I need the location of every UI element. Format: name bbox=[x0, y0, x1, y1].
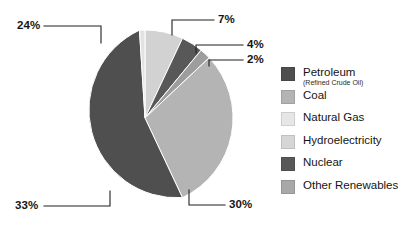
legend-label-petroleum: Petroleum bbox=[303, 66, 363, 79]
leader-line-natural-gas bbox=[44, 26, 101, 43]
legend-label-nuclear: Nuclear bbox=[303, 156, 343, 169]
leader-line-petroleum bbox=[44, 191, 110, 206]
chart-legend: Petroleum (Refined Crude Oil) Coal Natur… bbox=[281, 66, 408, 202]
legend-item-nuclear[interactable]: Nuclear bbox=[281, 156, 408, 179]
legend-text-hydroelectricity: Hydroelectricity bbox=[303, 134, 382, 147]
leader-line-hydroelectricity bbox=[172, 20, 214, 35]
pie-label-hydroelectricity: 7% bbox=[218, 14, 235, 26]
legend-swatch-hydroelectricity bbox=[281, 135, 295, 149]
legend-label-other-renewables: Other Renewables bbox=[303, 179, 398, 192]
legend-item-other-renewables[interactable]: Other Renewables bbox=[281, 179, 408, 202]
pie-label-coal: 30% bbox=[229, 199, 252, 211]
legend-label-hydroelectricity: Hydroelectricity bbox=[303, 134, 382, 147]
legend-item-petroleum[interactable]: Petroleum (Refined Crude Oil) bbox=[281, 66, 408, 89]
legend-text-other-renewables: Other Renewables bbox=[303, 179, 398, 192]
legend-swatch-coal bbox=[281, 90, 295, 104]
legend-label-natural-gas: Natural Gas bbox=[303, 111, 364, 124]
pie-chart-figure: 24% 7% 4% 2% 33% 30% Petroleum (Refined … bbox=[0, 0, 408, 229]
legend-text-coal: Coal bbox=[303, 89, 327, 102]
leader-line-coal bbox=[189, 190, 225, 205]
pie-slices bbox=[89, 30, 233, 198]
legend-item-coal[interactable]: Coal bbox=[281, 89, 408, 112]
pie-label-nuclear: 4% bbox=[247, 39, 264, 51]
legend-swatch-nuclear bbox=[281, 157, 295, 171]
pie-label-natural-gas: 24% bbox=[17, 20, 40, 32]
legend-item-natural-gas[interactable]: Natural Gas bbox=[281, 111, 408, 134]
legend-sublabel-petroleum: (Refined Crude Oil) bbox=[303, 79, 363, 87]
pie-label-other-renewables: 2% bbox=[247, 54, 264, 66]
legend-swatch-natural-gas bbox=[281, 112, 295, 126]
pie-label-petroleum: 33% bbox=[15, 200, 38, 212]
legend-text-petroleum: Petroleum (Refined Crude Oil) bbox=[303, 66, 363, 87]
legend-text-natural-gas: Natural Gas bbox=[303, 111, 364, 124]
legend-swatch-petroleum bbox=[281, 67, 295, 81]
legend-swatch-other-renewables bbox=[281, 180, 295, 194]
legend-label-coal: Coal bbox=[303, 89, 327, 102]
legend-item-hydroelectricity[interactable]: Hydroelectricity bbox=[281, 134, 408, 157]
legend-text-nuclear: Nuclear bbox=[303, 156, 343, 169]
